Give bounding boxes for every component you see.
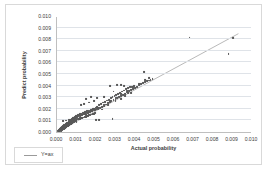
- gridline: [57, 119, 251, 120]
- scatter-point: [95, 119, 97, 121]
- scatter-point: [91, 110, 93, 112]
- y-tick-label: 0.009: [38, 26, 51, 31]
- scatter-point: [120, 84, 122, 86]
- scatter-point: [101, 108, 103, 110]
- scatter-point: [124, 95, 126, 97]
- x-tick-label: 0.000: [50, 135, 63, 144]
- scatter-point: [68, 124, 70, 126]
- y-tick-label: 0.005: [38, 72, 51, 77]
- scatter-point: [127, 92, 129, 94]
- scatter-point: [148, 77, 150, 79]
- scatter-point: [68, 119, 70, 121]
- scatter-point: [103, 103, 105, 105]
- scatter-point: [189, 37, 191, 39]
- x-tick-label: 0.007: [186, 135, 199, 144]
- plot-area: [56, 17, 251, 133]
- x-axis-title: Actual probability: [56, 144, 251, 152]
- scatter-point: [109, 100, 111, 102]
- scatter-point: [103, 96, 105, 98]
- x-tick-label: 0.005: [147, 135, 160, 144]
- scatter-point: [85, 114, 87, 116]
- y-tick-label: 0.007: [38, 49, 51, 54]
- x-tick-label: 0.002: [89, 135, 102, 144]
- gridline: [57, 108, 251, 109]
- y-tick-label: 0.004: [38, 84, 51, 89]
- scatter-point: [233, 37, 235, 39]
- x-tick-label: 0.003: [108, 135, 121, 144]
- y-tick-label: 0.006: [38, 61, 51, 66]
- y-tick-label: 0.001: [38, 119, 51, 124]
- x-tick-label: 0.006: [167, 135, 180, 144]
- scatter-point: [112, 118, 114, 120]
- x-tick-label: 0.010: [245, 135, 258, 144]
- gridline: [57, 61, 251, 62]
- y-tick-label: 0.010: [38, 14, 51, 19]
- scatter-point: [143, 71, 145, 73]
- gridline: [57, 27, 251, 28]
- scatter-point: [109, 85, 111, 87]
- scatter-point: [83, 103, 85, 105]
- scatter-point: [120, 98, 122, 100]
- scatter-point: [120, 93, 122, 95]
- scatter-point: [126, 90, 128, 92]
- scatter-point: [88, 101, 90, 103]
- x-tick-label: 0.009: [225, 135, 238, 144]
- scatter-point: [144, 79, 146, 81]
- scatter-point: [138, 83, 140, 85]
- legend-item-label: Y=ax: [41, 152, 53, 157]
- y-tick-label: 0.002: [38, 107, 51, 112]
- x-tick-label: 0.004: [128, 135, 141, 144]
- gridline: [57, 85, 251, 86]
- chart-container: Predict probability 0.0000.0010.0020.003…: [5, 4, 262, 165]
- x-tick-label: 0.008: [206, 135, 219, 144]
- scatter-point: [93, 100, 95, 102]
- scatter-point: [152, 78, 154, 80]
- scatter-point: [115, 96, 117, 98]
- scatter-point: [85, 98, 87, 100]
- scatter-point: [123, 85, 125, 87]
- y-axis-tick-labels: 0.0000.0010.0020.0030.0040.0050.0060.007…: [6, 17, 54, 133]
- scatter-point: [115, 100, 117, 102]
- scatter-point: [96, 97, 98, 99]
- chart-legend: Y=ax: [14, 147, 63, 163]
- scatter-point: [79, 117, 81, 119]
- y-tick-label: 0.008: [38, 38, 51, 43]
- scatter-point: [76, 121, 78, 123]
- scatter-point: [228, 53, 230, 55]
- gridline: [57, 73, 251, 74]
- scatter-point: [130, 92, 132, 94]
- gridline: [57, 50, 251, 51]
- scatter-point: [71, 119, 73, 121]
- legend-line-swatch: [24, 155, 37, 156]
- y-tick-label: 0.003: [38, 96, 51, 101]
- scatter-point: [62, 120, 64, 122]
- x-tick-label: 0.001: [69, 135, 82, 144]
- x-axis-tick-labels: 0.0000.0010.0020.0030.0040.0050.0060.007…: [56, 135, 251, 144]
- scatter-point: [116, 84, 118, 86]
- scatter-point: [80, 104, 82, 106]
- gridline: [57, 38, 251, 39]
- scatter-point: [98, 119, 100, 121]
- scatter-point: [97, 107, 99, 109]
- scatter-point: [90, 96, 92, 98]
- scatter-point: [107, 104, 109, 106]
- scatter-point: [74, 121, 76, 123]
- scatter-point: [132, 86, 134, 88]
- scatter-point: [113, 90, 115, 92]
- scatter-point: [94, 112, 96, 114]
- scatter-point: [64, 126, 66, 128]
